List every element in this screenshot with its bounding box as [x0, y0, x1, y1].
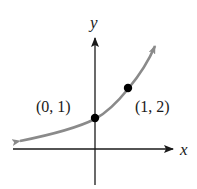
y-axis-label: y	[88, 13, 98, 32]
exponential-curve	[20, 46, 155, 141]
point-0-1	[91, 114, 99, 122]
point-0-1-label: (0, 1)	[36, 98, 71, 116]
x-axis-label: x	[179, 140, 188, 159]
point-1-2-label: (1, 2)	[135, 98, 170, 116]
point-1-2	[124, 84, 132, 92]
exponential-graph: y x (0, 1) (1, 2)	[0, 0, 197, 189]
